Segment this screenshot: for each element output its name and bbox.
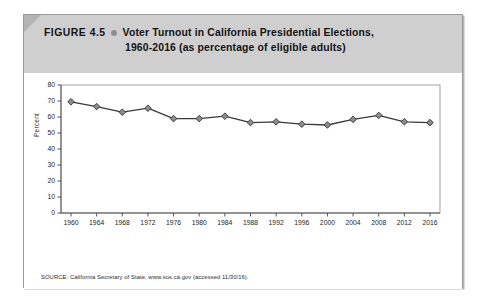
x-axis-tick-label: 1980 — [192, 219, 207, 226]
figure-number-label: FIGURE 4.5 — [44, 27, 106, 38]
y-axis-tick-label: 50 — [47, 129, 55, 136]
plot-frame — [61, 85, 440, 213]
y-axis-tick-label: 60 — [47, 113, 55, 120]
figure-header: FIGURE 4.5Voter Turnout in California Pr… — [24, 15, 462, 73]
y-axis-tick-label: 10 — [47, 193, 55, 200]
x-axis: 1960196419681972197619801984198819921996… — [61, 213, 440, 226]
y-axis-tick-label: 30 — [47, 161, 55, 168]
x-axis-tick-label: 2004 — [346, 219, 361, 226]
x-axis-tick-label: 1972 — [140, 219, 155, 226]
figure-title-line-1: Voter Turnout in California Presidential… — [123, 27, 374, 38]
figure-title-block: FIGURE 4.5Voter Turnout in California Pr… — [44, 25, 452, 55]
figure-card: FIGURE 4.5Voter Turnout in California Pr… — [23, 14, 463, 288]
x-axis-tick-label: 1964 — [89, 219, 104, 226]
x-axis-tick-label: 2016 — [422, 219, 437, 226]
y-axis: 01020304050607080 — [47, 81, 61, 216]
y-axis-tick-label: 0 — [51, 209, 55, 216]
bullet-dot-icon — [111, 30, 117, 36]
y-axis-tick-label: 40 — [47, 145, 55, 152]
chart-body: Percent 01020304050607080 19601964196819… — [24, 73, 462, 289]
chart-svg: 01020304050607080 1960196419681972197619… — [24, 73, 464, 253]
corner-fold-decoration — [24, 15, 41, 32]
y-axis-tick-label: 70 — [47, 97, 55, 104]
x-axis-tick-label: 2012 — [397, 219, 412, 226]
x-axis-tick-label: 1968 — [115, 219, 130, 226]
x-axis-tick-label: 2008 — [371, 219, 386, 226]
source-note: SOURCE: California Secretary of State, w… — [41, 274, 249, 280]
x-axis-tick-label: 1992 — [269, 219, 284, 226]
x-axis-tick-label: 1976 — [166, 219, 181, 226]
x-axis-tick-label: 1996 — [294, 219, 309, 226]
y-axis-tick-label: 20 — [47, 177, 55, 184]
figure-title-line-2: 1960-2016 (as percentage of eligible adu… — [125, 40, 452, 55]
x-axis-tick-label: 1960 — [63, 219, 78, 226]
y-axis-tick-label: 80 — [47, 81, 55, 88]
x-axis-tick-label: 2000 — [320, 219, 335, 226]
line-chart: 01020304050607080 1960196419681972197619… — [24, 73, 464, 253]
x-axis-tick-label: 1988 — [243, 219, 258, 226]
figure-title-row-1: FIGURE 4.5Voter Turnout in California Pr… — [44, 25, 452, 40]
plot-area-border — [61, 85, 440, 213]
x-axis-tick-label: 1984 — [217, 219, 232, 226]
